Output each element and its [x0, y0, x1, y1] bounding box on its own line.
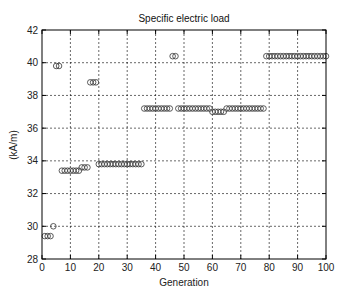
y-axis-label: (kA/m) — [8, 130, 19, 159]
y-tick-label: 34 — [27, 155, 39, 166]
y-axis-ticks: 2830323436384042 — [27, 25, 326, 265]
grid-lines — [42, 30, 326, 259]
x-tick-label: 0 — [39, 262, 45, 273]
y-tick-label: 30 — [27, 221, 39, 232]
x-tick-label: 40 — [150, 262, 162, 273]
y-tick-label: 32 — [27, 188, 39, 199]
scatter-chart: Specific electric load 01020304050607080… — [0, 0, 348, 294]
plot-frame — [42, 30, 326, 259]
y-tick-label: 28 — [27, 254, 39, 265]
chart-title: Specific electric load — [138, 13, 229, 24]
data-markers — [42, 53, 329, 239]
y-tick-label: 42 — [27, 25, 39, 36]
x-tick-label: 90 — [292, 262, 304, 273]
x-tick-label: 60 — [207, 262, 219, 273]
x-tick-label: 80 — [264, 262, 276, 273]
x-tick-label: 30 — [122, 262, 134, 273]
x-axis-label: Generation — [159, 277, 208, 288]
x-tick-label: 10 — [65, 262, 77, 273]
x-tick-label: 50 — [178, 262, 190, 273]
x-tick-label: 20 — [93, 262, 105, 273]
x-tick-label: 70 — [235, 262, 247, 273]
y-tick-label: 38 — [27, 90, 39, 101]
x-tick-label: 100 — [318, 262, 335, 273]
y-tick-label: 40 — [27, 57, 39, 68]
x-axis-ticks: 0102030405060708090100 — [39, 30, 335, 273]
y-tick-label: 36 — [27, 123, 39, 134]
